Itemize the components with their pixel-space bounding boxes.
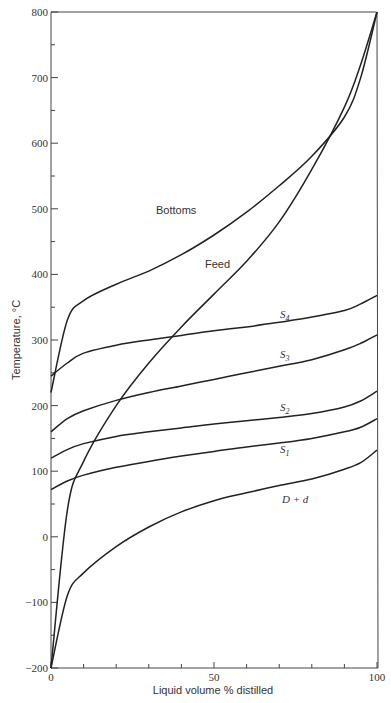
curve-feed: [51, 12, 377, 668]
label-feed: Feed: [205, 258, 230, 270]
y-tick-label: −100: [25, 596, 48, 608]
label-d-plus-d: D + d: [281, 493, 309, 505]
distillation-chart: 8007006005004003002001000−100−200 050100…: [0, 0, 391, 703]
y-tick-label: 700: [32, 72, 49, 84]
label-bottoms: Bottoms: [156, 204, 197, 216]
y-axis-label: Temperature, °C: [10, 300, 22, 380]
y-tick-label: 400: [32, 268, 49, 280]
y-axis-ticks: 8007006005004003002001000−100−200: [25, 6, 58, 674]
y-tick-label: 200: [32, 400, 49, 412]
x-axis-label: Liquid volume % distilled: [153, 684, 273, 696]
curve-s1: [51, 419, 377, 490]
label-s2: S2: [280, 401, 290, 416]
y-tick-label: −200: [25, 662, 48, 674]
y-tick-label: 500: [32, 203, 49, 215]
label-s1: S1: [280, 443, 290, 458]
curve-s4: [51, 295, 377, 376]
label-s3: S3: [280, 348, 290, 363]
x-tick-label: 50: [209, 671, 221, 683]
y-tick-label: 300: [32, 334, 49, 346]
y-tick-label: 800: [32, 6, 49, 18]
curves: [51, 12, 377, 668]
y-tick-label: 100: [32, 465, 49, 477]
curve-d-d: [51, 450, 377, 668]
y-tick-label: 0: [43, 531, 49, 543]
curve-s2: [51, 391, 377, 458]
curve-bottoms: [51, 12, 377, 393]
x-axis-ticks: 050100: [48, 662, 386, 683]
label-s4: S4: [280, 308, 290, 323]
plot-frame: [51, 12, 378, 668]
x-tick-label: 100: [369, 671, 386, 683]
y-tick-label: 600: [32, 137, 49, 149]
x-tick-label: 0: [48, 671, 54, 683]
